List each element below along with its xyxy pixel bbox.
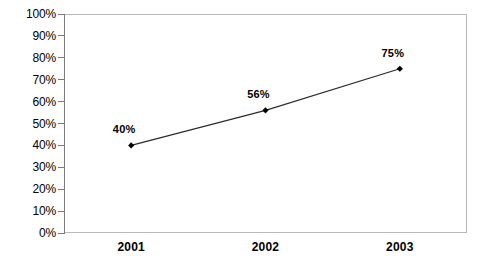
data-point-marker: [262, 107, 268, 113]
series-line: [131, 69, 400, 146]
data-point-label: 75%: [358, 47, 428, 59]
series-markers: [128, 66, 403, 149]
data-point-label: 56%: [224, 88, 294, 100]
data-point-label: 40%: [89, 123, 159, 135]
data-point-marker: [128, 142, 134, 148]
series-layer: [0, 0, 483, 268]
data-point-marker: [397, 66, 403, 72]
line-chart: 0%10%20%30%40%50%60%70%80%90%100% 200120…: [0, 0, 483, 268]
